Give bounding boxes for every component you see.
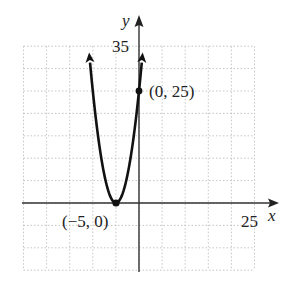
y-axis-label: y bbox=[120, 11, 130, 30]
point-vertex-label: (−5, 0) bbox=[62, 212, 108, 231]
x-axis-label: x bbox=[267, 206, 276, 225]
y-tick-label: 35 bbox=[112, 37, 129, 56]
point-vertex bbox=[112, 199, 119, 206]
point-intercept bbox=[136, 88, 143, 95]
parabola-curve bbox=[90, 63, 142, 203]
parabola-graph: y 35 (0, 25) (−5, 0) 25 x bbox=[0, 0, 296, 287]
point-intercept-label: (0, 25) bbox=[149, 82, 194, 101]
axes bbox=[22, 15, 279, 272]
x-tick-label: 25 bbox=[241, 212, 258, 231]
